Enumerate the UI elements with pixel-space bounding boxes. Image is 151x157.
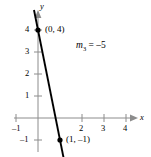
slope-subscript: 3 xyxy=(83,45,86,52)
point-label-1-neg1: (1, –1) xyxy=(66,135,90,144)
point-label-0-4: (0, 4) xyxy=(45,25,65,34)
y-tick-label-neg1: –1 xyxy=(20,135,29,144)
y-axis-label: y xyxy=(40,2,44,11)
graph-figure: y x 4 3 2 1 –1 –1 2 3 4 (0, 4) (1, –1) m… xyxy=(0,0,151,157)
y-tick-label-3: 3 xyxy=(25,47,29,56)
point-marker-0-4 xyxy=(35,27,40,32)
x-tick-label-2: 2 xyxy=(79,124,83,133)
slope-value: = –5 xyxy=(89,40,106,50)
x-tick-label-neg1: –1 xyxy=(12,124,21,133)
slope-annotation: m3 = –5 xyxy=(76,41,106,52)
x-axis-label: x xyxy=(140,113,144,122)
y-tick-label-1: 1 xyxy=(25,91,29,100)
y-tick-label-4: 4 xyxy=(25,25,29,34)
slope-symbol: m xyxy=(76,40,83,50)
x-tick-label-4: 4 xyxy=(123,124,127,133)
x-axis-arrow-icon xyxy=(130,115,138,122)
point-marker-1-neg1 xyxy=(57,137,62,142)
y-tick-label-2: 2 xyxy=(25,69,29,78)
x-tick-label-3: 3 xyxy=(101,124,105,133)
